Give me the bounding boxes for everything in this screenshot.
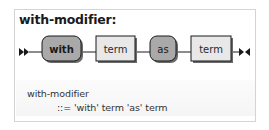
nonterminal-term-2-label: term — [199, 44, 223, 55]
nonterminal-term-2[interactable]: term — [191, 36, 233, 63]
railroad-diagram: with term as term — [15, 10, 257, 80]
grammar-rule-body: ::= 'with' term 'as' term — [27, 101, 167, 115]
nonterminal-term-1[interactable]: term — [96, 36, 137, 63]
diagram-frame: with-modifier: with term as — [14, 9, 256, 122]
terminal-as-label: as — [157, 44, 168, 55]
terminal-with-label: with — [49, 44, 74, 55]
grammar-definition: with-modifier ::= 'with' term 'as' term — [27, 87, 167, 115]
grammar-rule-name: with-modifier — [27, 87, 167, 101]
start-arrow-icon — [19, 48, 29, 56]
terminal-as[interactable]: as — [150, 36, 178, 63]
nonterminal-term-1-label: term — [104, 44, 128, 55]
end-arrow-icon — [239, 48, 250, 56]
terminal-with[interactable]: with — [42, 36, 83, 63]
